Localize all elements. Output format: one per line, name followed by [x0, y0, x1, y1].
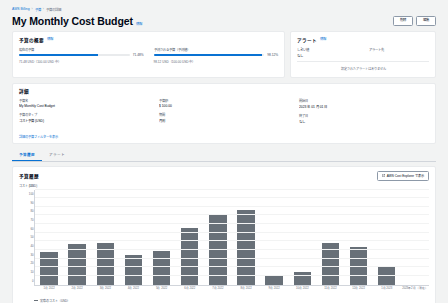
- chart-bar-column[interactable]: 5月 2022: [148, 190, 176, 285]
- chart-bar-column[interactable]: 12月 2022: [345, 190, 373, 285]
- detail-field: 予算のタイプ コスト予算 (USD): [19, 112, 149, 123]
- chart-x-label: 5月 2022: [156, 286, 167, 290]
- progress-bar: [154, 54, 265, 56]
- chart-bar-column[interactable]: 6月 2022: [176, 190, 204, 285]
- chart-x-label: 12月 2022: [352, 286, 365, 290]
- page-title-wrap: My Monthly Cost Budget 情報: [12, 15, 142, 27]
- chart-title: 予算履歴: [19, 173, 39, 179]
- chart-bar-column[interactable]: 8月 2022: [232, 190, 260, 285]
- chart-gridline: [35, 223, 429, 224]
- detail-value: コスト予算 (USD): [19, 118, 149, 123]
- breadcrumb-item-2: 予算の詳細: [46, 7, 61, 12]
- alert-column-label: しきい値: [297, 47, 357, 52]
- alert-title: アラート: [297, 37, 317, 43]
- summary-row: 予算の概要 情報 現在の予算 71.48% 71.48 USD（100.00 U…: [6, 31, 442, 78]
- chart-x-label: 6月 2022: [184, 286, 195, 290]
- breadcrumb-separator: ›: [32, 7, 33, 11]
- detail-column-1: 予算名 My Monthly Cost Budget 予算のタイプ コスト予算 …: [19, 98, 149, 128]
- budget-summary-info-link[interactable]: 情報: [47, 36, 53, 43]
- tab-budget-history[interactable]: 予算履歴: [12, 149, 42, 161]
- detail-value: なし: [299, 119, 429, 124]
- cost-explorer-button[interactable]: AWS Cost Explorer で表示: [377, 171, 429, 181]
- detail-label: 開始日: [299, 98, 429, 103]
- chart-gridline: [35, 197, 429, 198]
- chart-bar-column[interactable]: 9月 2022: [260, 190, 288, 285]
- chart-bar-column[interactable]: 1月 2023: [373, 190, 401, 285]
- chart-gridline: [35, 232, 429, 233]
- chart-y-tick: 110: [29, 184, 33, 188]
- chart-bar-column[interactable]: 10月 2022: [288, 190, 316, 285]
- chart-bar[interactable]: [68, 244, 85, 285]
- chart-gridline: [35, 214, 429, 215]
- breadcrumb-item-1[interactable]: 予算: [35, 7, 41, 12]
- chart-y-tick: 40: [30, 244, 33, 248]
- detail-grid: 予算名 My Monthly Cost Budget 予算のタイプ コスト予算 …: [13, 96, 435, 134]
- detail-column-2: 予算額 $ 100.00 期間 月別: [159, 98, 289, 128]
- detail-field: 開始日 2023 年 01 月 01 日: [299, 98, 429, 109]
- edit-button[interactable]: 編集: [416, 16, 436, 25]
- progress-row: 71.48%: [19, 53, 144, 57]
- chart-y-tick: 10: [30, 270, 33, 274]
- metric-label: 予測される予算（予測値）: [154, 47, 279, 52]
- chart-bar-column[interactable]: 4月 2022: [119, 190, 147, 285]
- progress-fill: [154, 54, 263, 56]
- chart-gridline: [35, 189, 429, 190]
- chart-bar-column[interactable]: 2023年2月（現在）: [401, 190, 429, 285]
- metric-sub: 71.48 USD（100.00 USD 中）: [19, 59, 144, 64]
- chart-y-tick: 30: [30, 253, 33, 257]
- detail-card: 詳細 予算名 My Monthly Cost Budget 予算のタイプ コスト…: [12, 83, 436, 144]
- breadcrumb-item-0[interactable]: AWS Billing: [12, 7, 30, 11]
- delete-button[interactable]: 削除: [393, 16, 413, 25]
- metric-label: 現在の予算: [19, 47, 144, 52]
- detail-value: $ 100.00: [159, 104, 289, 108]
- detail-label: 予算のタイプ: [19, 112, 149, 117]
- chart-x-label: 4月 2022: [128, 286, 139, 290]
- tab-bar: 予算履歴 アラート: [12, 149, 436, 162]
- detail-field: 予算額 $ 100.00: [159, 98, 289, 108]
- detail-label: 予算名: [19, 98, 149, 103]
- chart-x-label: 3月 2022: [100, 286, 111, 290]
- chart-bar-column[interactable]: 2月 2022: [63, 190, 91, 285]
- alert-column-label: アラート先: [369, 47, 429, 52]
- detail-value: 2023 年 01 月 01 日: [299, 104, 429, 109]
- chart-bar[interactable]: [181, 228, 198, 285]
- detail-field: 予算名 My Monthly Cost Budget: [19, 98, 149, 108]
- chart-bar[interactable]: [294, 272, 311, 285]
- chart-gridline: [35, 249, 429, 250]
- chart-gridline: [35, 258, 429, 259]
- chart-x-label: 7月 2022: [212, 286, 223, 290]
- alert-info-link[interactable]: 情報: [320, 36, 326, 43]
- budget-filter-link[interactable]: 詳細の予算フィルターを表示: [13, 134, 435, 143]
- chart-bar-column[interactable]: 11月 2022: [316, 190, 344, 285]
- chart-bar[interactable]: [265, 275, 282, 285]
- chart-bars: 1月 20222月 20223月 20224月 20225月 20226月 20…: [35, 190, 429, 285]
- budget-summary-title: 予算の概要: [19, 37, 44, 43]
- chart-bar[interactable]: [125, 255, 142, 284]
- tab-alerts[interactable]: アラート: [42, 149, 72, 161]
- chart-y-tick: 60: [30, 227, 33, 231]
- header-actions: 削除 編集: [393, 16, 436, 25]
- chart-x-label: 2023年2月（現在）: [402, 286, 427, 290]
- progress-percent: 71.48%: [133, 53, 144, 57]
- chart-bar-column[interactable]: 3月 2022: [91, 190, 119, 285]
- page-title: My Monthly Cost Budget: [12, 15, 133, 27]
- detail-value: 月別: [159, 118, 289, 123]
- breadcrumb: AWS Billing › 予算 › 予算の詳細: [6, 5, 442, 13]
- detail-header: 詳細: [13, 84, 435, 96]
- chart-bar[interactable]: [153, 251, 170, 285]
- legend-swatch: [34, 300, 38, 301]
- info-link[interactable]: 情報: [136, 21, 142, 28]
- chart-x-label: 8月 2022: [240, 286, 251, 290]
- progress-percent: 98.12%: [267, 53, 278, 57]
- detail-field: 期間 月別: [159, 112, 289, 123]
- chart-bar-column[interactable]: 7月 2022: [204, 190, 232, 285]
- alert-empty-text: 設定されたアラートはありません: [297, 61, 429, 77]
- progress-row: 98.12%: [154, 53, 279, 57]
- alert-card: アラート 情報 しきい値 なし アラート先 設定されたアラートはありません: [290, 31, 436, 78]
- chart-bar-column[interactable]: 1月 2022: [35, 190, 63, 285]
- alert-recipient-col: アラート先: [369, 47, 429, 58]
- chart-bar[interactable]: [237, 210, 254, 284]
- budget-metrics: 現在の予算 71.48% 71.48 USD（100.00 USD 中） 予測さ…: [13, 45, 284, 70]
- chart-y-tick: 0: [32, 279, 34, 283]
- page-header: My Monthly Cost Budget 情報 削除 編集: [6, 15, 442, 31]
